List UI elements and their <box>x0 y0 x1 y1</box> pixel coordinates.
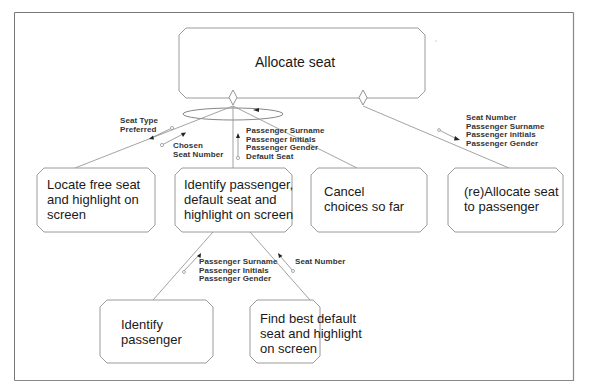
flow-arrow-icon <box>454 136 460 141</box>
node-label-cancel-choices: Cancel choices so far <box>324 184 404 214</box>
node-label-identify-passenger: Identify passenger <box>121 317 182 347</box>
node-label-identify-passenger-default-seat: Identify passenger, default seat and hig… <box>184 177 293 222</box>
flow-label-passenger-default: Passenger Surname Passenger Initials Pas… <box>246 127 325 161</box>
flow-label-seat-number: Seat Number <box>295 258 345 267</box>
flow-label-identify: Passenger Surname Passenger Initials Pas… <box>199 258 278 284</box>
flow-label-reallocate: Seat Number Passenger Surname Passenger … <box>466 114 545 148</box>
flow-arrow-icon <box>149 136 154 140</box>
data-couple-icon <box>160 143 163 146</box>
node-label-locate-free-seat: Locate free seat and highlight on screen <box>47 177 140 222</box>
node-label-find-best-default-seat: Find best default seat and highlight on … <box>260 311 362 356</box>
data-couple-icon <box>236 156 239 159</box>
data-couple-icon <box>170 126 173 129</box>
data-couple-icon <box>438 129 441 132</box>
flow-arrow-icon <box>236 133 240 138</box>
data-couple-icon <box>292 270 295 273</box>
node-label-reallocate-seat: (re)Allocate seat to passenger <box>464 184 559 214</box>
node-label-allocate-seat: Allocate seat <box>255 55 335 70</box>
flow-label-chosen-seat: Chosen Seat Number <box>173 142 223 159</box>
flow-label-seat-type: Seat Type Preferred <box>120 117 158 134</box>
flow-arrow-icon <box>278 253 283 258</box>
data-couple-icon <box>183 271 186 274</box>
